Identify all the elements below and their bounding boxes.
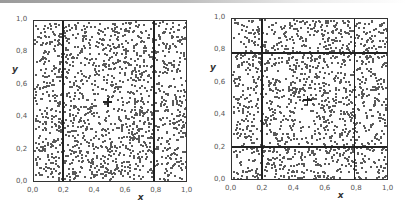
data-point	[233, 37, 235, 39]
data-point	[257, 26, 259, 28]
data-point	[140, 178, 142, 180]
data-point	[245, 171, 247, 173]
data-point	[128, 30, 130, 32]
data-point	[45, 138, 47, 140]
data-point	[87, 108, 89, 110]
data-point	[311, 135, 313, 137]
data-point	[335, 47, 337, 49]
data-point	[166, 140, 168, 142]
data-point	[361, 97, 363, 99]
data-point	[36, 103, 38, 105]
data-point	[333, 129, 335, 131]
data-point	[122, 144, 124, 146]
data-point	[163, 62, 165, 64]
data-point	[299, 21, 301, 23]
data-point	[80, 143, 82, 145]
data-point	[384, 176, 386, 178]
data-point	[243, 143, 245, 145]
data-point	[332, 105, 334, 107]
data-point	[329, 150, 331, 152]
data-point	[98, 70, 100, 72]
data-point	[256, 150, 258, 152]
data-point	[356, 122, 358, 124]
data-point	[283, 115, 285, 117]
data-point	[35, 174, 37, 176]
data-point	[138, 139, 140, 141]
data-point	[276, 157, 278, 159]
data-point	[382, 88, 384, 90]
data-point	[278, 62, 280, 64]
data-point	[348, 103, 350, 105]
data-point	[374, 97, 376, 99]
data-point	[102, 155, 104, 157]
data-point	[97, 46, 99, 48]
data-point	[331, 39, 333, 41]
data-point	[361, 63, 363, 65]
data-point	[287, 119, 289, 121]
data-point	[370, 166, 372, 168]
data-point	[88, 142, 90, 144]
data-point	[266, 62, 268, 64]
data-point	[292, 47, 294, 49]
data-point	[327, 32, 329, 34]
data-point	[239, 123, 241, 125]
data-point	[246, 37, 248, 39]
data-point	[271, 65, 273, 67]
data-point	[124, 57, 126, 59]
data-point	[240, 164, 242, 166]
data-point	[276, 151, 278, 153]
data-point	[236, 58, 238, 60]
data-point	[79, 150, 81, 152]
data-point	[66, 93, 68, 95]
data-point	[368, 94, 370, 96]
data-point	[265, 116, 267, 118]
data-point	[72, 65, 74, 67]
data-point	[274, 166, 276, 168]
data-point	[128, 101, 130, 103]
data-point	[266, 76, 268, 78]
data-point	[178, 120, 180, 122]
data-point	[138, 175, 140, 177]
data-point	[178, 132, 180, 134]
data-point	[313, 98, 315, 100]
data-point	[271, 108, 273, 110]
data-point	[177, 109, 179, 111]
data-point	[319, 71, 321, 73]
data-point	[121, 124, 123, 126]
data-point	[113, 77, 115, 79]
data-point	[142, 112, 144, 114]
data-point	[117, 99, 119, 101]
data-point	[162, 42, 164, 44]
data-point	[177, 40, 179, 42]
data-point	[158, 35, 160, 37]
data-point	[141, 156, 143, 158]
data-point	[45, 166, 47, 168]
data-point	[109, 57, 111, 59]
data-point	[54, 97, 56, 99]
data-point	[105, 89, 107, 91]
data-point	[237, 178, 239, 180]
data-point	[97, 86, 99, 88]
data-point	[109, 151, 111, 153]
data-point	[294, 150, 296, 152]
data-point	[364, 161, 366, 163]
data-point	[145, 30, 147, 32]
data-point	[118, 127, 120, 129]
data-point	[129, 23, 131, 25]
data-point	[253, 81, 255, 83]
data-point	[100, 145, 102, 147]
data-point	[65, 26, 67, 28]
data-point	[291, 129, 293, 131]
data-point	[365, 177, 367, 179]
data-point	[176, 71, 178, 73]
data-point	[106, 82, 108, 84]
data-point	[246, 26, 248, 28]
data-point	[327, 40, 329, 42]
data-point	[115, 161, 117, 163]
data-point	[264, 169, 266, 171]
data-point	[96, 171, 98, 173]
data-point	[342, 154, 344, 156]
data-point	[372, 150, 374, 152]
data-point	[327, 129, 329, 131]
data-point	[38, 143, 40, 145]
